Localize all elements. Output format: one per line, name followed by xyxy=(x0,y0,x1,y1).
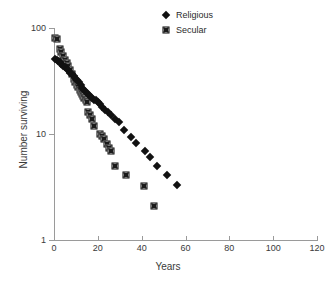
legend-item-secular[interactable]: Secular xyxy=(160,23,213,36)
data-point xyxy=(90,122,97,129)
y-tick xyxy=(49,28,55,29)
legend-item-religious[interactable]: Religious xyxy=(160,8,213,21)
data-point xyxy=(88,115,95,122)
data-point xyxy=(153,162,161,170)
filled-diamond-icon xyxy=(160,10,172,20)
data-point xyxy=(107,148,114,155)
x-tick-label: 20 xyxy=(84,243,112,253)
x-tick-label: 60 xyxy=(172,243,200,253)
x-tick xyxy=(229,236,230,241)
x-tick xyxy=(98,236,99,241)
crosshatch-square-icon xyxy=(160,25,172,35)
data-point xyxy=(112,162,119,169)
x-tick xyxy=(317,236,318,241)
x-tick xyxy=(273,236,274,241)
x-axis-title: Years xyxy=(0,261,336,272)
x-tick-label: 100 xyxy=(259,243,287,253)
data-point xyxy=(123,172,130,179)
legend-label-religious: Religious xyxy=(176,10,213,20)
y-tick xyxy=(49,134,55,135)
x-tick-label: 120 xyxy=(303,243,331,253)
x-tick-label: 0 xyxy=(40,243,68,253)
data-point xyxy=(132,139,140,147)
data-point xyxy=(146,153,154,161)
data-point xyxy=(163,171,171,179)
legend-label-secular: Secular xyxy=(176,25,207,35)
plot-area: 110100 020406080100120 xyxy=(0,0,336,291)
chart-container: 110100 020406080100120 Years Number surv… xyxy=(0,0,336,291)
y-tick-label: 100 xyxy=(20,23,46,33)
data-point xyxy=(172,181,180,189)
x-tick-label: 40 xyxy=(128,243,156,253)
data-point xyxy=(54,35,61,42)
x-tick xyxy=(186,236,187,241)
chart-legend: Religious Secular xyxy=(160,8,213,38)
data-point xyxy=(150,202,157,209)
data-point xyxy=(140,183,147,190)
data-point xyxy=(120,125,128,133)
x-tick xyxy=(54,236,55,241)
y-axis-title: Number surviving xyxy=(18,60,29,200)
x-tick xyxy=(142,236,143,241)
x-tick-label: 80 xyxy=(215,243,243,253)
